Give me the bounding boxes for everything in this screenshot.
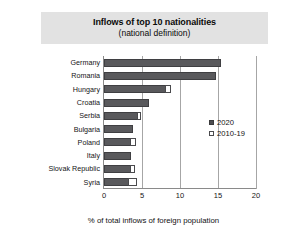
bar-segment-2020[interactable] [104,99,149,107]
bar-segment-2020[interactable] [104,85,166,93]
legend-item-2010-19[interactable]: 2010-19 [209,129,245,138]
x-axis-line [104,188,256,189]
gridline [256,56,257,189]
category-label: Bulgaria [74,123,100,136]
category-label: Italy [87,149,100,162]
filled-square-icon [209,120,214,125]
category-label: Germany [70,56,100,69]
bar-segment-2020[interactable] [104,125,133,133]
category-label: Serbia [79,109,100,122]
x-tick-label: 20 [252,191,260,200]
page-title: Inflows of top 10 nationalities [93,17,216,28]
open-square-icon [209,131,214,136]
chart-figure: Inflows of top 10 nationalities (nationa… [0,0,307,237]
x-tick-label: 5 [140,191,144,200]
bar-segment-2020[interactable] [104,112,138,120]
bar-row: Romania [104,69,256,82]
legend-label: 2010-19 [217,129,245,138]
bar-segment-2020[interactable] [104,138,131,146]
category-label: Hungary [73,83,100,96]
x-tick-label: 0 [102,191,106,200]
bar-segment-2010-19[interactable] [128,178,137,186]
bar-segment-2020[interactable] [104,165,131,173]
bar-segment-2010-19[interactable] [137,112,141,120]
bar-row: Italy [104,149,256,162]
chart-legend: 2020 2010-19 [209,118,245,138]
chart-title-band: Inflows of top 10 nationalities (nationa… [41,12,268,44]
bar-row: Germany [104,56,256,69]
bar-segment-2020[interactable] [104,72,216,80]
bar-segment-2020[interactable] [104,152,131,160]
bar-segment-2010-19[interactable] [130,165,135,173]
bar-row: Hungary [104,83,256,96]
bar-row: Syria [104,176,256,189]
category-label: Romania [71,69,100,82]
bar-row: Slovak Republic [104,162,256,175]
bar-segment-2020[interactable] [104,59,221,67]
category-label: Croatia [77,96,100,109]
x-tick-label: 10 [176,191,184,200]
bar-segment-2020[interactable] [104,178,129,186]
x-axis-title: % of total inflows of foreign population [0,216,307,225]
category-label: Poland [78,136,100,149]
bar-segment-2010-19[interactable] [165,85,170,93]
bar-row: Croatia [104,96,256,109]
legend-item-2020[interactable]: 2020 [209,118,245,127]
chart-subtitle: (national definition) [119,28,191,39]
bar-segment-2010-19[interactable] [130,138,136,146]
legend-label: 2020 [217,118,234,127]
x-tick-label: 15 [214,191,222,200]
category-label: Slovak Republic [48,162,100,175]
category-label: Syria [84,176,100,189]
